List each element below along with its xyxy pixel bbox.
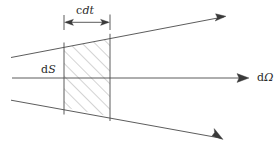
solid-angle-label-variable: Ω [264,71,273,84]
lower-cone-ray [11,100,221,138]
area-label: dS [41,64,56,75]
upper-cone-ray [11,17,224,58]
thickness-label: cdt [76,5,94,16]
radiation-cone-figure: cdt dS dΩ [0,0,280,151]
arrow-right-icon [237,74,249,83]
arrow-up-right-icon [215,14,226,21]
thickness-label-variable: dt [82,4,94,17]
arrow-down-right-icon [212,129,223,140]
cone-rays [11,17,224,138]
area-label-variable: S [48,63,56,76]
solid-angle-label: dΩ [257,72,274,83]
